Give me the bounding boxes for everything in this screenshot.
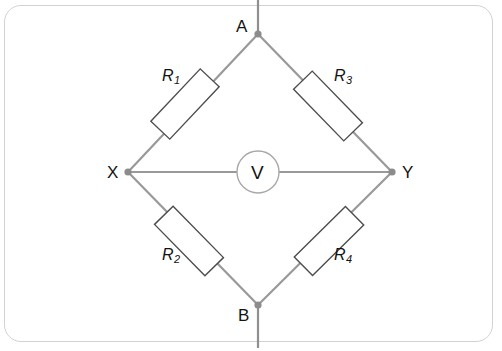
resistor-label-r3: R3 <box>334 68 352 84</box>
resistor-label-r1-letter: R <box>162 67 174 84</box>
resistor-label-r1-subscript: 1 <box>174 74 180 86</box>
resistor-label-r2-subscript: 2 <box>174 253 180 265</box>
node-dot-y <box>388 168 395 175</box>
resistor-label-r4: R4 <box>334 247 352 263</box>
resistor-label-r4-letter: R <box>334 246 346 263</box>
resistor-r2-body <box>155 206 224 276</box>
resistor-label-r3-subscript: 3 <box>346 74 352 86</box>
node-dot-x <box>124 168 131 175</box>
resistor-label-r3-letter: R <box>334 67 346 84</box>
node-label-x: X <box>107 164 118 181</box>
node-dot-a <box>254 30 261 37</box>
resistor-label-r2: R2 <box>162 247 180 263</box>
node-dot-b <box>254 301 261 308</box>
node-label-y: Y <box>402 164 413 181</box>
node-label-a: A <box>236 18 247 35</box>
resistor-r3-body <box>294 71 363 141</box>
resistor-label-r4-subscript: 4 <box>346 253 352 265</box>
resistor-label-r1: R1 <box>162 68 180 84</box>
voltmeter-label: V <box>251 163 264 182</box>
resistor-r4-body <box>294 206 363 275</box>
node-label-b: B <box>238 307 249 324</box>
figure-canvas: A X Y B R1 R3 R2 R4 V <box>0 0 502 351</box>
resistor-label-r2-letter: R <box>162 246 174 263</box>
